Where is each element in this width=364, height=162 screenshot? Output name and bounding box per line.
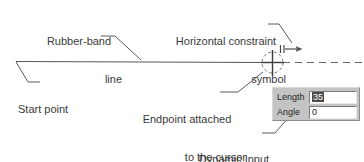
angle-value: 0 — [312, 107, 317, 117]
dynamic-input-row-angle: Angle 0 — [275, 105, 357, 119]
annotation-line-1: Endpoint attached — [128, 113, 246, 126]
annotation-line-1: Horizontal constraint — [166, 35, 286, 48]
annotation-line-1: Rubber-band — [36, 35, 122, 48]
dynamic-input-panel[interactable]: Length 35 Angle 0 — [272, 87, 360, 121]
annotation-line-1: Start point — [18, 103, 68, 116]
annotation-line-1: Dynamic Input — [180, 153, 288, 162]
annotation-start-point: Start point — [18, 78, 68, 141]
angle-input[interactable]: 0 — [309, 106, 357, 119]
length-value: 35 — [312, 92, 324, 102]
dynamic-input-row-length: Length 35 — [275, 90, 357, 104]
figure-canvas: Rubber-band line Horizontal constraint s… — [0, 0, 364, 162]
annotation-line-2: symbol — [166, 73, 286, 86]
length-input[interactable]: 35 — [309, 91, 357, 104]
annotation-dynamic-input-boxes: Dynamic Input Boxes — [180, 128, 288, 162]
length-label: Length — [275, 90, 309, 104]
angle-label: Angle — [275, 105, 309, 119]
